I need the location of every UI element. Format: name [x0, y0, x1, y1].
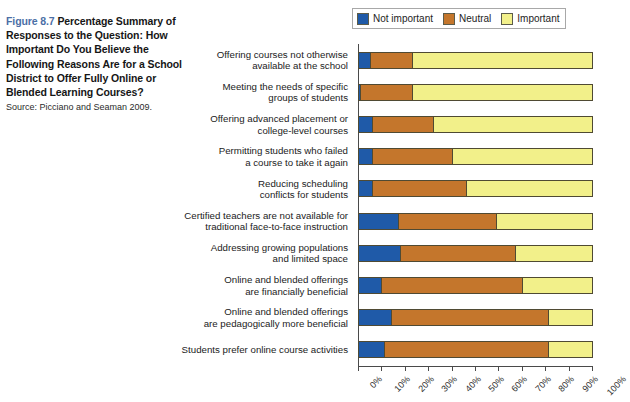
legend-label: Not important — [373, 13, 433, 24]
bar-segment — [496, 213, 593, 230]
x-axis-tick-label: 40% — [463, 374, 483, 394]
bar-segment — [358, 245, 401, 262]
bar-segment — [358, 341, 385, 358]
category-label: Addressing growing populations and limit… — [148, 242, 348, 265]
category-label: Offering courses not otherwise available… — [148, 49, 348, 72]
stacked-bar — [358, 277, 593, 294]
legend-label: Neutral — [459, 13, 491, 24]
x-axis-tick-label: 0% — [368, 374, 384, 390]
x-axis-tick-label: 80% — [556, 374, 576, 394]
x-axis-tick-label: 10% — [393, 374, 413, 394]
stacked-bar — [358, 213, 593, 230]
chart-legend: Not importantNeutralImportant — [352, 8, 566, 29]
bar-segment — [398, 213, 497, 230]
x-axis-tick — [475, 366, 476, 371]
bar-segment — [384, 341, 549, 358]
bar-segment — [372, 148, 453, 165]
bar-segment — [370, 52, 413, 69]
bar-segment — [381, 277, 522, 294]
category-label: Offering advanced placement or college-l… — [148, 113, 348, 136]
category-label: Certified teachers are not available for… — [148, 210, 348, 233]
bar-segment — [372, 116, 434, 133]
x-axis-tick — [498, 366, 499, 371]
bar-segment — [515, 245, 593, 262]
plot-area: 0%10%20%30%40%50%60%70%80%90%100% — [358, 44, 592, 366]
x-axis-tick — [381, 366, 382, 371]
stacked-bar — [358, 245, 593, 262]
category-label: Reducing scheduling conflicts for studen… — [148, 178, 348, 201]
x-axis-tick-label: 60% — [510, 374, 530, 394]
category-label: Online and blended offerings are pedagog… — [148, 306, 348, 329]
x-axis-tick-label: 70% — [533, 374, 553, 394]
bar-segment — [358, 180, 373, 197]
bar-segment — [358, 309, 392, 326]
bar-segment — [391, 309, 549, 326]
legend-swatch-icon — [357, 13, 369, 25]
category-label-list: Offering courses not otherwise available… — [150, 44, 353, 366]
x-axis-tick — [569, 366, 570, 371]
legend-swatch-icon — [501, 13, 513, 25]
bar-segment — [360, 84, 412, 101]
stacked-bar — [358, 52, 593, 69]
x-axis-tick — [428, 366, 429, 371]
x-axis-tick — [452, 366, 453, 371]
bar-segment — [433, 116, 593, 133]
x-axis-tick — [545, 366, 546, 371]
category-label: Online and blended offerings are financi… — [148, 274, 348, 297]
bar-segment — [522, 277, 593, 294]
figure-number: Figure 8.7 — [6, 15, 55, 27]
bar-segment — [372, 180, 467, 197]
stacked-bar — [358, 84, 593, 101]
legend-item: Important — [501, 13, 559, 25]
x-axis-tick-label: 30% — [439, 374, 459, 394]
bar-segment — [548, 309, 593, 326]
legend-swatch-icon — [443, 13, 455, 25]
category-label: Students prefer online course activities — [148, 344, 348, 355]
category-label: Permitting students who failed a course … — [148, 145, 348, 168]
bar-segment — [412, 52, 593, 69]
category-label: Meeting the needs of specific groups of … — [148, 81, 348, 104]
stacked-bar — [358, 309, 593, 326]
x-axis-tick-label: 100% — [605, 374, 628, 397]
bar-segment — [358, 213, 399, 230]
x-axis-tick-label: 50% — [486, 374, 506, 394]
x-axis-tick — [405, 366, 406, 371]
bar-segment — [412, 84, 593, 101]
bar-segment — [466, 180, 593, 197]
bar-segment — [358, 148, 373, 165]
legend-item: Not important — [357, 13, 433, 25]
x-axis-tick — [358, 366, 359, 371]
bar-segment — [548, 341, 593, 358]
bar-segment — [400, 245, 516, 262]
stacked-bar — [358, 148, 593, 165]
legend-item: Neutral — [443, 13, 491, 25]
bar-segment — [452, 148, 593, 165]
legend-label: Important — [517, 13, 559, 24]
stacked-bar — [358, 341, 593, 358]
x-axis-tick — [522, 366, 523, 371]
bar-segment — [358, 116, 373, 133]
stacked-bar — [358, 116, 593, 133]
bar-segment — [358, 277, 382, 294]
x-axis-tick-label: 90% — [580, 374, 600, 394]
stacked-bar — [358, 180, 593, 197]
x-axis-tick — [592, 366, 593, 371]
x-axis-tick-label: 20% — [416, 374, 436, 394]
